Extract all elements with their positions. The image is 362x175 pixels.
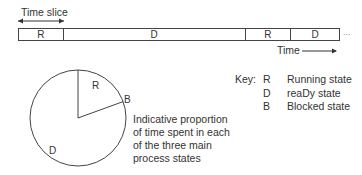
key-meaning: reaDy state <box>287 87 341 101</box>
pie-label-running: R <box>92 80 99 91</box>
key-code: B <box>263 100 287 114</box>
key-code: D <box>263 87 287 101</box>
process-state-timeline: R D R D <box>18 28 340 41</box>
timeline-segment-running: R <box>246 29 292 40</box>
state-proportion-pie-chart: R B D <box>28 68 132 172</box>
time-direction-arrow-icon <box>300 46 340 56</box>
pie-description-line: of the three main <box>133 139 230 152</box>
key-row-blocked: B Blocked state <box>235 100 352 114</box>
key-heading: Key: <box>235 73 263 87</box>
timeline-segment-ready: D <box>64 29 246 40</box>
pie-description-line: process states <box>133 152 230 165</box>
key-row-running: Key: R Running state <box>235 73 352 87</box>
time-label: Time <box>277 44 300 56</box>
pie-description: Indicative proportion of time spent in e… <box>133 113 230 165</box>
timeline-continuation-ellipsis: ... <box>343 27 351 37</box>
state-key-legend: Key: R Running state D reaDy state B Blo… <box>235 73 352 114</box>
pie-description-line: of time spent in each <box>133 126 230 139</box>
pie-label-blocked: B <box>124 94 131 105</box>
pie-divider-running-end <box>78 102 123 118</box>
key-row-ready: D reaDy state <box>235 87 352 101</box>
timeline-segment-running: R <box>19 29 64 40</box>
key-code: R <box>263 73 287 87</box>
key-meaning: Running state <box>287 73 352 87</box>
pie-label-ready: D <box>49 145 56 156</box>
timeline-segment-ready: D <box>291 29 339 40</box>
key-meaning: Blocked state <box>287 100 350 114</box>
time-slice-double-arrow-icon <box>14 16 68 26</box>
pie-description-line: Indicative proportion <box>133 113 230 126</box>
